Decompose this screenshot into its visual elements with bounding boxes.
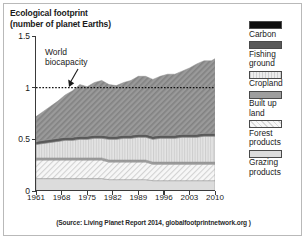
legend-item-fishing-ground[interactable]: Fishing ground xyxy=(249,41,303,69)
legend-label: Built up land xyxy=(249,99,303,118)
chart-screenshot: Ecological footprint (number of planet E… xyxy=(0,0,307,241)
legend-item-built-up-land[interactable]: Built up land xyxy=(249,91,303,119)
source-note: (Source: Living Planet Report 2014, glob… xyxy=(0,219,307,226)
legend-item-grazing-products[interactable]: Grazing products xyxy=(249,150,303,178)
down-left-arrow-icon xyxy=(66,68,82,88)
legend-item-forest-products[interactable]: Forest products xyxy=(249,120,303,148)
area-band-carbon xyxy=(36,59,215,142)
world-biocapacity-label: World biocapacity xyxy=(45,47,88,67)
chart-legend: CarbonFishing groundCroplandBuilt up lan… xyxy=(249,21,303,179)
legend-label: Fishing ground xyxy=(249,50,303,69)
y-tick-mark xyxy=(32,36,36,37)
legend-swatch xyxy=(249,21,282,29)
legend-label: Forest products xyxy=(249,129,303,148)
legend-label: Carbon xyxy=(249,30,303,40)
legend-label: Cropland xyxy=(249,79,303,89)
y-tick-label: 0.5 xyxy=(8,134,30,144)
x-tick-label: 2010 xyxy=(200,193,230,202)
chart-title: Ecological footprint (number of planet E… xyxy=(10,8,111,30)
y-tick-label: 1.5 xyxy=(8,31,30,41)
y-axis-line xyxy=(35,36,36,191)
y-tick-mark xyxy=(32,139,36,140)
y-tick-mark xyxy=(32,87,36,88)
y-tick-label: 1 xyxy=(8,83,30,93)
legend-swatch xyxy=(249,120,282,128)
legend-item-carbon[interactable]: Carbon xyxy=(249,21,303,39)
legend-swatch xyxy=(249,41,282,49)
area-bands xyxy=(36,59,215,191)
legend-label: Grazing products xyxy=(249,158,303,177)
legend-item-cropland[interactable]: Cropland xyxy=(249,71,303,89)
